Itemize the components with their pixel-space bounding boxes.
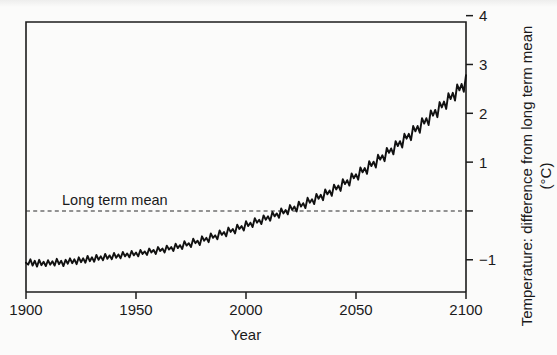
x-tick-label-1900: 1900 [9, 301, 42, 318]
x-axis-title: Year [231, 326, 261, 343]
y-tick-label-4: 4 [479, 7, 487, 24]
y-tick-label-1: 1 [479, 154, 487, 171]
y-axis-title: Temperature: difference from long term m… [518, 26, 535, 327]
x-tick-label-2000: 2000 [229, 301, 262, 318]
x-tick-label-1950: 1950 [119, 301, 152, 318]
plot-frame [26, 22, 466, 292]
y-tick-label-3: 3 [479, 56, 487, 73]
y-tick-label-2: 2 [479, 105, 487, 122]
temperature-series-line [26, 75, 466, 266]
temperature-anomaly-chart: 19001950200020502100 −11234 Year Long te… [0, 0, 557, 355]
x-tick-label-2100: 2100 [449, 301, 482, 318]
y-axis-title-units: (°C) [537, 163, 554, 190]
x-tick-labels: 19001950200020502100 [9, 301, 482, 318]
x-axis-ticks [26, 292, 466, 299]
y-tick-labels: −11234 [479, 7, 496, 268]
y-tick-label--1: −1 [479, 251, 496, 268]
long-term-mean-annotation: Long term mean [62, 192, 168, 208]
y-axis-ticks [466, 16, 473, 260]
cropped-title-edge [0, 0, 557, 7]
chart-svg: 19001950200020502100 −11234 Year Long te… [0, 0, 557, 355]
x-tick-label-2050: 2050 [339, 301, 372, 318]
